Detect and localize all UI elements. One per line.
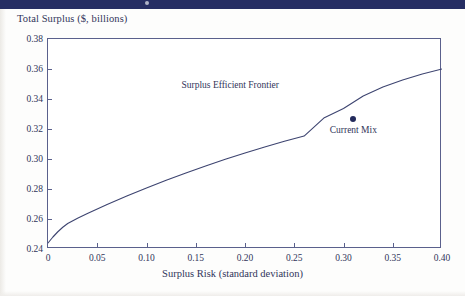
x-tick-label: 0.40	[434, 253, 451, 263]
y-tick-mark	[48, 189, 52, 190]
chart-page: Total Surplus ($, billions) 0.240.260.28…	[0, 0, 465, 296]
y-tick-label: 0.34	[26, 94, 43, 104]
y-axis-title: Total Surplus ($, billions)	[17, 13, 127, 24]
x-tick-label: 0.05	[89, 253, 106, 263]
y-tick-label: 0.24	[26, 244, 43, 254]
top-banner	[0, 0, 465, 9]
banner-dot-icon	[145, 1, 149, 5]
y-tick-mark	[48, 129, 52, 130]
x-tick-mark	[97, 243, 98, 247]
y-tick-mark	[48, 159, 52, 160]
x-tick-label: 0.35	[384, 253, 401, 263]
x-tick-mark	[344, 243, 345, 247]
x-tick-label: 0	[46, 253, 51, 263]
x-tick-label: 0.30	[335, 253, 352, 263]
y-tick-label: 0.38	[26, 34, 43, 44]
x-tick-label: 0.25	[286, 253, 303, 263]
x-tick-mark	[196, 243, 197, 247]
y-tick-label: 0.28	[26, 184, 43, 194]
x-tick-label: 0.10	[138, 253, 155, 263]
x-tick-label: 0.20	[237, 253, 254, 263]
y-tick-label: 0.32	[26, 124, 43, 134]
surplus-efficient-frontier-line	[48, 69, 442, 243]
y-tick-mark	[48, 99, 52, 100]
chart-annotation: Surplus Efficient Frontier	[181, 80, 278, 90]
current-mix-label: Current Mix	[330, 125, 377, 135]
x-tick-label: 0.15	[187, 253, 204, 263]
x-tick-mark	[147, 243, 148, 247]
y-tick-mark	[48, 69, 52, 70]
x-tick-mark	[393, 243, 394, 247]
y-tick-label: 0.30	[26, 154, 43, 164]
x-axis-title: Surplus Risk (standard deviation)	[0, 268, 465, 279]
frontier-curve-svg	[48, 39, 442, 249]
x-tick-mark	[245, 243, 246, 247]
current-mix-point	[350, 116, 356, 122]
page-edge-shadow-bottom	[0, 291, 465, 296]
y-tick-label: 0.26	[26, 214, 43, 224]
x-tick-mark	[294, 243, 295, 247]
y-tick-label: 0.36	[26, 64, 43, 74]
y-tick-mark	[48, 219, 52, 220]
plot-area: 0.240.260.280.300.320.340.360.3800.050.1…	[47, 38, 441, 248]
page-edge-shadow-left	[0, 9, 6, 296]
